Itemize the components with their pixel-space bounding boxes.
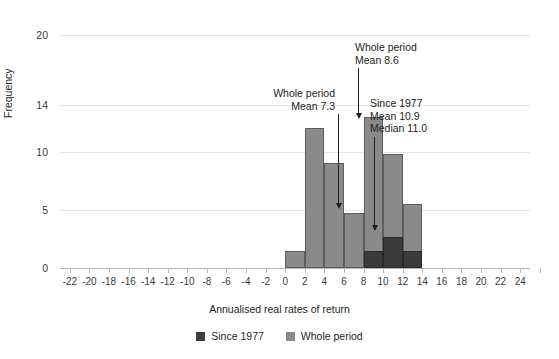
x-axis-tick [266, 268, 267, 273]
x-axis-tick [501, 268, 502, 273]
x-axis-tick [89, 268, 90, 273]
x-axis-tick [520, 268, 521, 273]
annotation-arrow-line [374, 137, 375, 226]
x-axis-tick-label: 2 [302, 276, 308, 287]
x-axis-tick-label: 24 [515, 276, 526, 287]
legend-label: Whole period [301, 330, 363, 342]
x-axis-tick-label: -10 [180, 276, 194, 287]
bar [383, 237, 403, 268]
x-axis-tick [540, 268, 541, 273]
x-axis-tick [461, 268, 462, 273]
x-axis-tick [383, 268, 384, 273]
x-axis-tick-label: -8 [202, 276, 211, 287]
annotation-since-1977-stats: Since 1977Mean 10.9Median 11.0 [370, 97, 427, 135]
annotation-arrow-head [356, 113, 362, 119]
x-axis-tick [305, 268, 306, 273]
x-axis-tick [148, 268, 149, 273]
x-axis-tick [207, 268, 208, 273]
x-axis-tick [422, 268, 423, 273]
x-axis-tick-label: 12 [397, 276, 408, 287]
legend-swatch-icon [286, 332, 295, 341]
x-axis-tick-label: 16 [436, 276, 447, 287]
bar [324, 163, 344, 268]
legend-swatch-icon [196, 332, 205, 341]
x-axis-tick-label: 0 [282, 276, 288, 287]
x-axis-tick-label: -12 [160, 276, 174, 287]
x-axis-tick [442, 268, 443, 273]
x-axis-tick [403, 268, 404, 273]
annotation-line: Whole period [215, 87, 335, 100]
x-axis-tick-label: -22 [63, 276, 77, 287]
x-axis-tick-label: 18 [456, 276, 467, 287]
legend-item[interactable]: Whole period [286, 330, 363, 342]
x-axis-tick [226, 268, 227, 273]
gridline-y [60, 210, 530, 211]
x-axis-tick-label: 4 [322, 276, 328, 287]
y-axis-tick-label: 10 [0, 146, 48, 158]
x-axis-tick-label: -14 [141, 276, 155, 287]
bar [305, 128, 325, 268]
x-axis-tick-label: 10 [378, 276, 389, 287]
x-axis-tick-label: -20 [82, 276, 96, 287]
annotation-arrow-head [336, 203, 342, 209]
bar [344, 213, 364, 268]
x-axis-tick [109, 268, 110, 273]
legend-label: Since 1977 [211, 330, 264, 342]
x-axis-tick-label: 6 [341, 276, 347, 287]
annotation-line: Since 1977 [370, 97, 427, 110]
y-axis-tick-label: 0 [0, 262, 48, 274]
plot-area [60, 35, 530, 268]
x-axis-tick [246, 268, 247, 273]
bar [364, 251, 384, 268]
bar [403, 251, 423, 268]
annotation-arrow-line [338, 114, 339, 204]
annotation-line: Whole period [355, 41, 417, 54]
x-axis-tick [324, 268, 325, 273]
gridline-y [60, 35, 530, 36]
x-axis-title: Annualised real rates of return [0, 303, 559, 315]
x-axis-tick-label: -2 [261, 276, 270, 287]
legend-item[interactable]: Since 1977 [196, 330, 264, 342]
x-axis-tick [168, 268, 169, 273]
x-axis-tick-label: -4 [242, 276, 251, 287]
y-axis-tick-label: 20 [0, 29, 48, 41]
x-axis-tick [187, 268, 188, 273]
y-axis-tick-label: 5 [0, 204, 48, 216]
x-axis-tick [129, 268, 130, 273]
annotation-whole-period-mean: Whole periodMean 8.6 [355, 41, 417, 66]
x-axis-tick-label: 8 [361, 276, 367, 287]
x-axis-tick [344, 268, 345, 273]
x-axis-tick-label: 14 [417, 276, 428, 287]
x-axis-tick-label: -16 [121, 276, 135, 287]
x-axis-tick-label: -18 [102, 276, 116, 287]
bar [285, 251, 305, 268]
annotation-arrow-head [372, 225, 378, 231]
x-axis-tick-label: 20 [475, 276, 486, 287]
x-axis-tick [285, 268, 286, 273]
x-axis-tick [481, 268, 482, 273]
chart-container: Frequency 05101420 -22-20-18-16-14-12-10… [0, 0, 559, 359]
annotation-arrow-line [358, 68, 359, 114]
annotation-line: Mean 8.6 [355, 54, 417, 67]
gridline-y [60, 152, 530, 153]
x-axis: -22-20-18-16-14-12-10-8-6-4-202468101214… [60, 268, 530, 269]
x-axis-tick [70, 268, 71, 273]
chart-legend: Since 1977Whole period [0, 330, 559, 342]
annotation-line: Mean 7.3 [215, 100, 335, 113]
y-axis-tick-label: 14 [0, 99, 48, 111]
x-axis-tick-label: 22 [495, 276, 506, 287]
annotation-line: Median 11.0 [370, 122, 427, 135]
x-axis-tick [364, 268, 365, 273]
annotation-line: Mean 10.9 [370, 110, 427, 123]
annotation-whole-period-mean-7-3: Whole periodMean 7.3 [215, 87, 335, 112]
x-axis-tick-label: -6 [222, 276, 231, 287]
